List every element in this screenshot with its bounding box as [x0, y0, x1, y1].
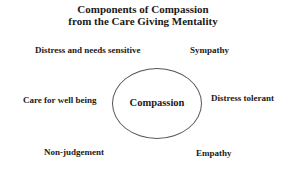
component-distress-tolerant: Distress tolerant — [211, 93, 274, 103]
component-care-for-well-being: Care for well being — [23, 95, 96, 105]
diagram-title-line-2: from the Care Giving Mentality — [0, 15, 286, 27]
diagram-title-line-1: Components of Compassion — [0, 3, 286, 15]
component-empathy: Empathy — [196, 148, 232, 158]
component-non-judgement: Non-judgement — [44, 147, 104, 157]
center-label-compassion: Compassion — [112, 97, 202, 109]
component-sympathy: Sympathy — [190, 45, 229, 55]
component-distress-and-needs-sensitive: Distress and needs sensitive — [35, 45, 141, 55]
